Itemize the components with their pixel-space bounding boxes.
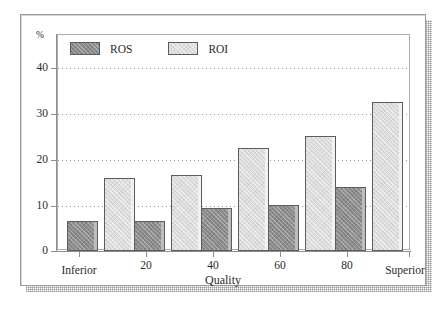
bar-ros-20 — [134, 221, 162, 251]
x-axis-title: Quality — [0, 273, 446, 288]
y-axis-label-0: 0 — [22, 245, 48, 257]
bar-ros-40-side — [228, 208, 232, 251]
bar-roi-80-side — [399, 102, 403, 251]
chart-screenshot: 40 30 20 10 0 % — [0, 0, 446, 314]
legend-swatch-ros-icon — [70, 42, 100, 55]
bar-roi-20 — [171, 175, 199, 251]
bar-ros-40 — [201, 208, 229, 251]
x-axis-label-20: 20 — [140, 259, 152, 271]
bar-roi-60 — [305, 136, 333, 251]
y-tick-10 — [51, 206, 57, 207]
y-tick-40 — [51, 68, 57, 69]
y-axis-label-10: 10 — [22, 200, 48, 212]
bar-ros-60-side — [295, 205, 299, 251]
y-label-0-wrap: 0 — [22, 245, 48, 257]
y-axis-label-40: 40 — [22, 62, 48, 74]
y-label-30-wrap: 30 — [22, 108, 48, 120]
y-label-10-wrap: 10 — [22, 200, 48, 212]
y-label-20-wrap: 20 — [22, 154, 48, 166]
bar-ros-20-side — [161, 221, 165, 251]
chart-legend: ROS ROI — [70, 42, 228, 55]
x-tick-20 — [146, 252, 147, 257]
x-axis-line — [56, 251, 411, 252]
bar-roi-80 — [372, 102, 400, 251]
x-axis-label-40: 40 — [207, 259, 219, 271]
bar-ros-inferior-side — [94, 221, 98, 251]
legend-label-ros: ROS — [110, 43, 132, 55]
gridline-30 — [58, 114, 409, 115]
gridline-40 — [58, 68, 409, 69]
bar-roi-inferior — [104, 178, 132, 251]
x-tick-superior — [409, 252, 410, 257]
x-tick-40 — [213, 252, 214, 257]
bar-ros-60 — [268, 205, 296, 251]
x-tick-80 — [347, 252, 348, 257]
bar-ros-80 — [335, 187, 363, 251]
y-tick-20 — [51, 160, 57, 161]
legend-swatch-roi-icon — [168, 42, 198, 55]
bar-ros-80-side — [362, 187, 366, 251]
legend-item-roi: ROI — [168, 42, 228, 55]
y-axis-line — [56, 34, 57, 252]
y-axis-label-30: 30 — [22, 108, 48, 120]
y-tick-0 — [51, 251, 57, 252]
legend-item-ros: ROS — [70, 42, 162, 55]
legend-label-roi: ROI — [208, 43, 228, 55]
bar-roi-40 — [238, 148, 266, 251]
gridline-20 — [58, 160, 409, 161]
x-tick-inferior — [79, 252, 80, 257]
x-axis-label-80: 80 — [341, 259, 353, 271]
y-axis-label-20: 20 — [22, 154, 48, 166]
y-tick-30 — [51, 114, 57, 115]
x-axis-label-60: 60 — [274, 259, 286, 271]
y-label-40-wrap: 40 — [22, 62, 48, 74]
bar-ros-inferior — [67, 221, 95, 251]
x-tick-60 — [280, 252, 281, 257]
y-axis-unit-label: % — [36, 30, 44, 40]
